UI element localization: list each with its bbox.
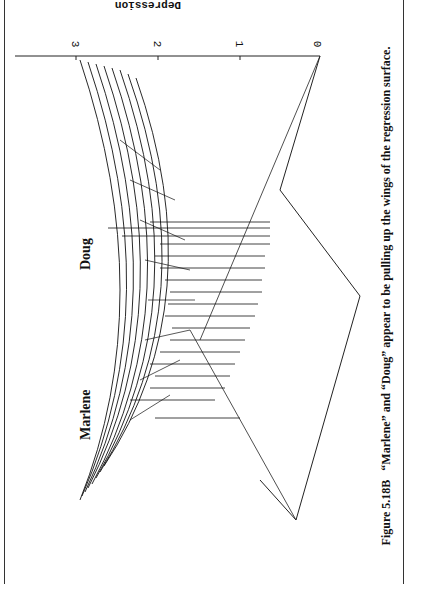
svg-text:1: 1	[233, 41, 245, 48]
figure-number: Figure 5.18B	[379, 480, 393, 546]
axis-title: Depression	[115, 0, 181, 11]
label-doug: Doug	[78, 238, 93, 270]
axis-ticks: 3 2 1 0	[69, 41, 323, 48]
svg-text:2: 2	[151, 41, 163, 48]
label-marlene: Marlene	[78, 389, 93, 440]
figure-caption: Figure 5.18B “Marlene” and “Doug” appear…	[379, 47, 394, 546]
caption-text: “Marlene” and “Doug” appear to be pullin…	[379, 47, 393, 471]
svg-text:0: 0	[311, 41, 323, 48]
svg-text:3: 3	[69, 41, 81, 48]
regression-surface-plot: 3 2 1 0 Depression	[0, 0, 421, 591]
